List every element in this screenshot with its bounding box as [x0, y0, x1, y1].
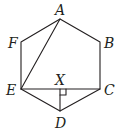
- label-A: A: [53, 2, 65, 18]
- label-C: C: [104, 82, 115, 98]
- hexagon-diagram: A B C D E F X: [0, 0, 123, 133]
- label-E: E: [5, 82, 16, 98]
- label-B: B: [103, 35, 114, 51]
- right-angle-marker: [60, 89, 66, 95]
- label-D: D: [54, 115, 66, 131]
- label-F: F: [7, 35, 19, 51]
- label-X: X: [54, 72, 66, 88]
